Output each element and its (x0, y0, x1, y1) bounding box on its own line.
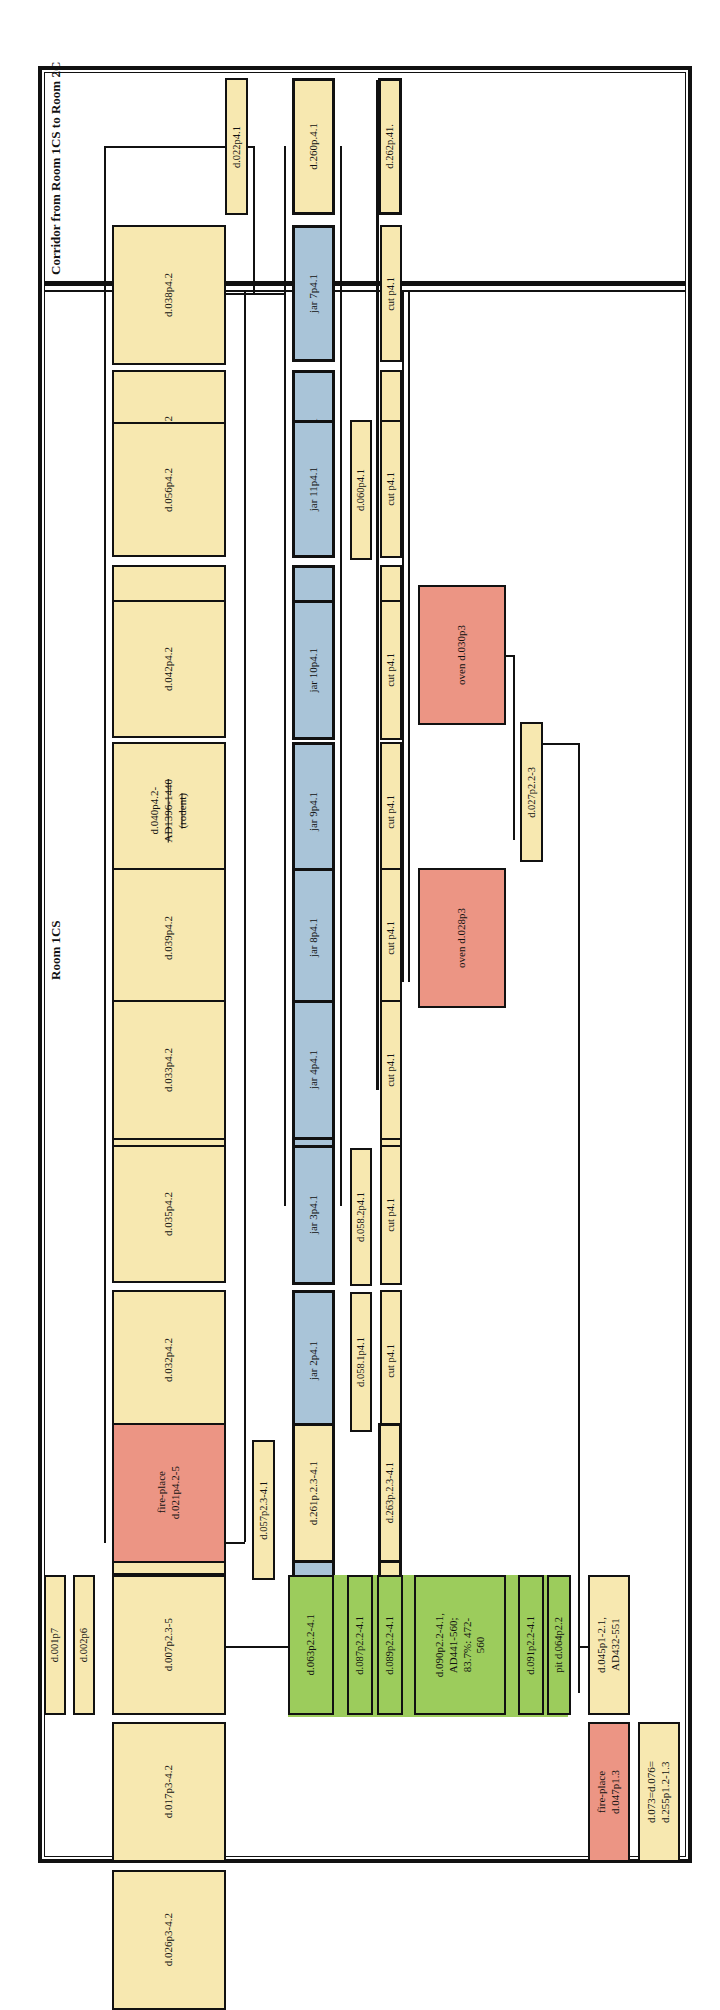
unit-d064-pit[interactable]: pit d.064p2.2 (547, 1575, 571, 1715)
connector-line (402, 292, 404, 982)
unit-d262[interactable]: d.262p.41. (378, 78, 402, 215)
unit-d017[interactable]: d.017p3-4.2 (112, 1722, 226, 1862)
room-title: Room 1CS (48, 900, 64, 980)
unit-cut[interactable]: cut p4.1 (380, 225, 402, 362)
unit-d038[interactable]: d.038p4.2 (112, 225, 226, 365)
unit-d063[interactable]: d.063p2.2-4.1 (288, 1575, 334, 1715)
connector-line (513, 655, 515, 840)
unit-d026[interactable]: d.026p3-4.2 (112, 1870, 226, 2010)
unit-jar10[interactable]: jar 10p4.1 (292, 600, 335, 740)
unit-d035[interactable]: d.035p4.2 (112, 1145, 226, 1283)
unit-d263[interactable]: d.263p.2.3-4.1 (378, 1423, 402, 1563)
connector-line (253, 146, 255, 293)
unit-d058-1[interactable]: d.058.1p4.1 (350, 1292, 372, 1432)
unit-cut[interactable]: cut p4.1 (380, 420, 402, 558)
unit-oven-d030[interactable]: oven d.030p3 (418, 585, 506, 725)
connector-line (578, 1646, 588, 1648)
unit-d091[interactable]: d.091p2.2-4.1 (518, 1575, 544, 1715)
connector-line (376, 80, 379, 1090)
connector-line (543, 743, 579, 745)
unit-jar8[interactable]: jar 8p4.1 (292, 868, 335, 1008)
unit-d045[interactable]: d.045p1-2.1, AD432-551 (588, 1575, 630, 1715)
unit-oven-d028[interactable]: oven d.028p3 (418, 868, 506, 1008)
unit-jar4[interactable]: jar 4p4.1 (292, 1000, 335, 1140)
connector-line (225, 293, 285, 295)
unit-jar9[interactable]: jar 9p4.1 (292, 742, 335, 882)
unit-jar3[interactable]: jar 3p4.1 (292, 1145, 335, 1285)
unit-cut[interactable]: cut p4.1 (380, 1290, 402, 1432)
unit-d022[interactable]: d.022p4.1 (225, 78, 248, 215)
unit-d042[interactable]: d.042p4.2 (112, 600, 226, 738)
corridor-title: Corridor from Room 1CS to Room 2C (48, 90, 64, 275)
unit-d002[interactable]: d.002p6 (73, 1575, 95, 1715)
unit-d047-fireplace[interactable]: fire-place d.047p1.3 (588, 1722, 630, 1862)
unit-d039[interactable]: d.039p4.2 (112, 868, 226, 1008)
unit-d001[interactable]: d.001p7 (44, 1575, 66, 1715)
unit-d060[interactable]: d.060p4.1 (350, 420, 372, 560)
unit-d087[interactable]: d.087p2.2-4.1 (347, 1575, 373, 1715)
connector-line (244, 292, 246, 1542)
connector-line (104, 146, 106, 1543)
unit-cut[interactable]: cut p4.1 (380, 742, 402, 882)
connector-line (578, 743, 580, 1693)
unit-cut[interactable]: cut p4.1 (380, 600, 402, 740)
unit-d056[interactable]: d.056p4.2 (112, 422, 226, 557)
unit-jar2[interactable]: jar 2p4.1 (292, 1290, 335, 1432)
unit-jar7[interactable]: jar 7p4.1 (292, 225, 335, 362)
unit-jar11[interactable]: jar 11p4.1 (292, 420, 335, 558)
connector-line (225, 1542, 245, 1544)
connector-line (225, 1646, 290, 1648)
unit-cut[interactable]: cut p4.1 (380, 1145, 402, 1285)
unit-d040[interactable]: d.040p4.2- AD1396-1440 (rodent) (112, 742, 226, 880)
unit-d021-fireplace[interactable]: fire-place d.021p4.2-5 (112, 1423, 226, 1563)
unit-d007[interactable]: d.007p2.3-5 (112, 1575, 226, 1715)
connector-line (284, 146, 286, 1206)
unit-d089[interactable]: d.089p2.2-4.1 (377, 1575, 403, 1715)
unit-d033[interactable]: d.033p4.2 (112, 1000, 226, 1140)
unit-cut[interactable]: cut p4.1 (380, 1000, 402, 1140)
unit-cut[interactable]: cut p4.1 (380, 868, 402, 1008)
unit-d090[interactable]: d.090p2.2-4.1, AD441-560; 83.7%: 472- 56… (414, 1575, 506, 1715)
unit-d057[interactable]: d.057p2.3-4.1 (252, 1440, 275, 1580)
unit-d073[interactable]: d.073=d.076= d.255p1.2-1.3 (638, 1722, 680, 1862)
unit-d261[interactable]: d.261p.2.3-4.1 (292, 1423, 335, 1563)
unit-d260[interactable]: d.260p.4.1 (292, 78, 335, 215)
connector-line (340, 146, 342, 1206)
unit-d027[interactable]: d.027p2.2-3 (520, 722, 543, 862)
unit-d058-2[interactable]: d.058.2p4.1 (350, 1148, 372, 1286)
unit-d032[interactable]: d.032p4.2 (112, 1290, 226, 1430)
connector-line (408, 292, 410, 982)
